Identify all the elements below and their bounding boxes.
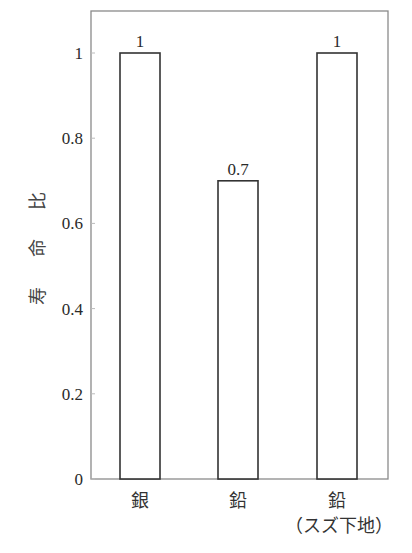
y-tick-label: 0	[75, 470, 84, 489]
x-category-label: （スズ下地）	[285, 515, 393, 536]
y-axis-label-char: 比	[27, 192, 48, 210]
x-axis-category-labels: 銀鉛鉛（スズ下地）	[131, 490, 393, 536]
y-tick-label: 0.8	[62, 129, 83, 148]
bars: 10.71	[120, 32, 357, 479]
x-category-label: 鉛	[229, 490, 247, 511]
y-axis-ticks: 00.20.40.60.81	[62, 44, 95, 489]
y-axis-label: 寿命比	[27, 192, 48, 305]
bar-value-label: 1	[136, 32, 145, 51]
bar	[317, 53, 357, 479]
x-category-label: 鉛	[328, 490, 346, 511]
x-category-label: 銀	[131, 490, 149, 511]
bar-value-label: 0.7	[227, 160, 249, 179]
y-axis-label-char: 寿	[27, 287, 48, 305]
bar	[120, 53, 160, 479]
y-tick-label: 0.4	[62, 300, 84, 319]
bar-chart: 00.20.40.60.81 10.71 銀鉛鉛（スズ下地） 寿命比	[0, 0, 412, 553]
y-tick-label: 1	[75, 44, 84, 63]
bar	[218, 181, 258, 479]
y-tick-label: 0.6	[62, 214, 83, 233]
y-axis-label-char: 命	[27, 239, 48, 257]
y-tick-label: 0.2	[62, 385, 83, 404]
bar-value-label: 1	[333, 32, 342, 51]
